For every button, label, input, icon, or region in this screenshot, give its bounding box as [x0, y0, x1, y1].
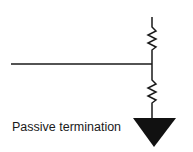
- upper-resistor-icon: [148, 17, 156, 64]
- diagram-label: Passive termination: [12, 120, 121, 134]
- ground-icon: [133, 118, 176, 147]
- lower-resistor-icon: [148, 64, 156, 118]
- passive-termination-diagram: Passive termination: [0, 0, 193, 152]
